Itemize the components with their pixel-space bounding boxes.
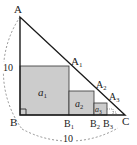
dimension-ab: 10 bbox=[3, 62, 13, 73]
label-A: A bbox=[14, 3, 22, 15]
label-A1: A1 bbox=[71, 55, 83, 69]
triangle-diagram: A B C A1 A2 A3 B1 B2 B3 a1 a2 a3 bbox=[0, 0, 137, 145]
label-C: C bbox=[122, 115, 129, 127]
diagram-container: A B C A1 A2 A3 B1 B2 B3 a1 a2 a3 bbox=[0, 0, 137, 145]
dotted-small-squares bbox=[107, 109, 116, 115]
dashed-arc-ab bbox=[3, 17, 22, 129]
label-B1: B1 bbox=[64, 118, 74, 130]
dimension-bc: 10 bbox=[63, 133, 73, 144]
label-A2: A2 bbox=[96, 79, 106, 91]
label-B3: B3 bbox=[103, 118, 113, 130]
label-B: B bbox=[10, 116, 17, 128]
label-B2: B2 bbox=[90, 118, 100, 130]
square-a1 bbox=[20, 66, 69, 115]
label-A3: A3 bbox=[109, 91, 119, 103]
